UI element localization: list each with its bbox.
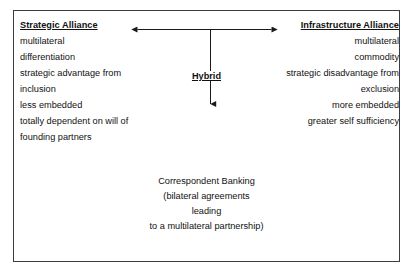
right-column-item: greater self sufficiency: [286, 113, 399, 129]
left-column-item: founding partners: [20, 129, 128, 145]
left-column-item: less embedded: [20, 97, 128, 113]
right-column-item: multilateral: [286, 33, 399, 49]
right-column-item: exclusion: [286, 81, 399, 97]
left-column: Strategic Alliance multilateral differen…: [20, 17, 128, 145]
diagram-root: Strategic Alliance multilateral differen…: [0, 0, 413, 276]
bottom-text-line: to a multilateral partnership): [0, 219, 413, 234]
bottom-text-line: leading: [0, 204, 413, 219]
hybrid-label: Hybrid: [0, 71, 413, 81]
right-column-heading: Infrastructure Alliance: [286, 17, 399, 33]
left-column-item: multilateral: [20, 33, 128, 49]
hybrid-label-text: Hybrid: [190, 71, 223, 81]
bottom-text-line: (bilateral agreements: [0, 189, 413, 204]
left-column-heading: Strategic Alliance: [20, 17, 128, 33]
left-column-item: totally dependent on will of: [20, 113, 128, 129]
right-column-item: more embedded: [286, 97, 399, 113]
left-column-item: inclusion: [20, 81, 128, 97]
bottom-text-line: Correspondent Banking: [0, 174, 413, 189]
right-column-item: commodity: [286, 49, 399, 65]
bottom-text-block: Correspondent Banking (bilateral agreeme…: [0, 174, 413, 234]
left-column-item: differentiation: [20, 49, 128, 65]
